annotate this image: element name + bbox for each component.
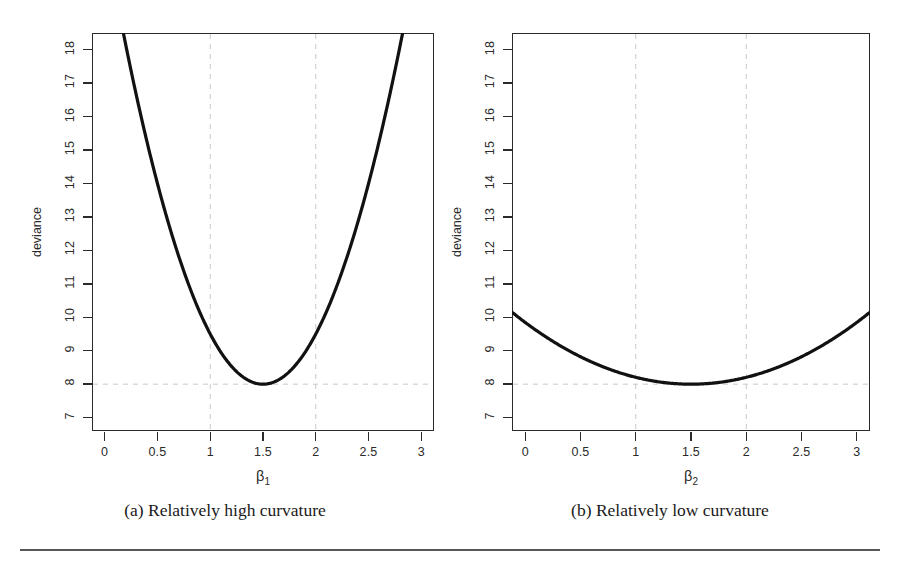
x-tick-mark [580,432,581,441]
y-tick-mark [503,216,512,217]
figure-bottom-rule [20,549,880,551]
x-axis-label-sub-a: 1 [264,476,270,487]
y-tick-mark [503,116,512,117]
y-tick-mark [83,383,92,384]
x-tick-mark [157,432,158,441]
x-axis-label-sub-b: 2 [692,476,698,487]
x-tick-label: 0.5 [561,445,601,459]
y-axis-label-a: deviance [30,187,44,277]
y-tick-label: 11 [63,269,77,295]
y-tick-mark [83,149,92,150]
x-tick-label: 2.5 [349,445,389,459]
y-tick-mark [83,283,92,284]
x-tick-label: 2 [296,445,336,459]
x-tick-mark [801,432,802,441]
x-tick-label: 3 [401,445,441,459]
y-tick-mark [503,149,512,150]
y-tick-label: 18 [63,35,77,61]
y-tick-label: 15 [483,135,497,161]
y-tick-mark [83,82,92,83]
y-tick-label: 12 [483,235,497,261]
x-tick-label: 2 [726,445,766,459]
y-tick-label: 14 [63,169,77,195]
plot-canvas-b [450,0,901,520]
caption-b: (b) Relatively low curvature [450,500,890,521]
figure-root: deviance β1 (a) Relatively high curvatur… [0,0,901,566]
y-tick-mark [503,317,512,318]
panel-a: deviance β1 (a) Relatively high curvatur… [0,0,450,520]
x-tick-mark [635,432,636,441]
y-tick-label: 14 [483,169,497,195]
y-tick-label: 10 [483,302,497,328]
y-tick-label: 8 [63,369,77,395]
y-tick-label: 16 [483,102,497,128]
y-tick-mark [83,250,92,251]
y-tick-mark [83,317,92,318]
y-tick-label: 17 [63,68,77,94]
deviance-curve [512,312,870,384]
y-tick-label: 15 [63,135,77,161]
y-tick-label: 16 [63,102,77,128]
y-tick-mark [503,183,512,184]
y-tick-mark [503,383,512,384]
x-tick-label: 0 [505,445,545,459]
y-tick-label: 8 [483,369,497,395]
y-tick-mark [83,417,92,418]
x-tick-label: 0.5 [137,445,177,459]
x-tick-label: 2.5 [781,445,821,459]
x-tick-mark [690,432,691,441]
x-tick-mark [104,432,105,441]
x-tick-label: 1 [190,445,230,459]
x-tick-label: 1.5 [243,445,283,459]
y-tick-mark [503,82,512,83]
caption-a: (a) Relatively high curvature [5,500,445,521]
y-tick-label: 7 [483,403,497,429]
y-tick-mark [503,250,512,251]
y-tick-label: 9 [483,336,497,362]
x-tick-label: 1.5 [671,445,711,459]
x-tick-mark [746,432,747,441]
y-tick-mark [83,116,92,117]
y-tick-label: 9 [63,336,77,362]
x-tick-mark [856,432,857,441]
y-tick-label: 7 [63,403,77,429]
panel-b: deviance β2 (b) Relatively low curvature… [450,0,900,520]
y-tick-mark [503,283,512,284]
y-tick-label: 11 [483,269,497,295]
x-tick-mark [262,432,263,441]
y-tick-mark [83,350,92,351]
y-tick-label: 12 [63,235,77,261]
y-tick-mark [83,49,92,50]
x-axis-label-b: β2 [631,468,751,487]
x-tick-mark [525,432,526,441]
y-tick-label: 18 [483,35,497,61]
y-tick-mark [83,183,92,184]
y-tick-mark [503,417,512,418]
y-tick-label: 17 [483,68,497,94]
deviance-curve [92,0,434,384]
y-tick-mark [83,216,92,217]
x-axis-label-a: β1 [203,468,323,487]
x-tick-mark [315,432,316,441]
y-tick-mark [503,49,512,50]
x-tick-label: 1 [616,445,656,459]
x-tick-mark [368,432,369,441]
x-tick-label: 3 [837,445,877,459]
y-tick-label: 10 [63,302,77,328]
x-tick-mark [210,432,211,441]
y-tick-label: 13 [63,202,77,228]
y-tick-mark [503,350,512,351]
y-tick-label: 13 [483,202,497,228]
x-tick-mark [421,432,422,441]
x-tick-label: 0 [85,445,125,459]
y-axis-label-b: deviance [450,187,464,277]
